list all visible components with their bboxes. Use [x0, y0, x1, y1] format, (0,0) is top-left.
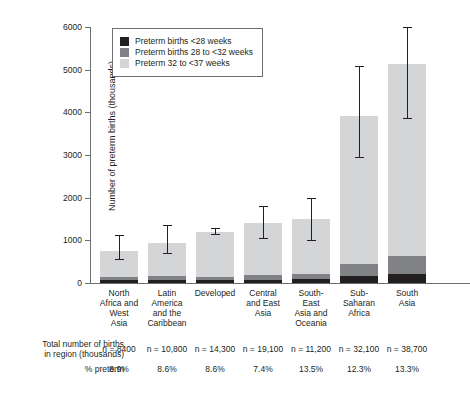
error-bar-cap-low-5	[355, 157, 364, 158]
legend-item-2: Preterm 32 to <37 weeks	[120, 59, 253, 69]
error-bar-cap-low-2	[211, 234, 220, 235]
category-label-line: Asia	[379, 298, 435, 308]
y-axis-line	[90, 27, 91, 283]
error-bar-cap-low-3	[259, 238, 268, 239]
bar-segment-1	[244, 275, 282, 280]
bar-segment-0	[388, 274, 426, 283]
bar-segment-1	[148, 276, 186, 280]
y-tick-1000	[85, 240, 90, 241]
error-bar-cap-low-0	[115, 259, 124, 260]
y-tick-label-4000: 4000	[38, 108, 82, 117]
bar-segment-2	[196, 232, 234, 277]
category-label-line: Caribbean	[139, 318, 195, 328]
error-bar-3	[263, 206, 264, 238]
y-tick-label-6000: 6000	[38, 23, 82, 32]
chart-legend: Preterm births <28 weeksPreterm births 2…	[112, 28, 263, 77]
y-tick-label-1000: 1000	[38, 236, 82, 245]
error-bar-cap-high-6	[403, 27, 412, 28]
table-row: Total number of birthsin region (thousan…	[0, 340, 470, 360]
bar-segment-0	[148, 280, 186, 283]
bar-segment-1	[100, 277, 138, 280]
bar-segment-1	[388, 256, 426, 274]
error-bar-cap-high-4	[307, 198, 316, 199]
category-label-line: South	[379, 288, 435, 298]
error-bar-cap-low-6	[403, 118, 412, 119]
bar-segment-1	[340, 264, 378, 276]
legend-item-1: Preterm births 28 to <32 weeks	[120, 48, 253, 58]
y-tick-3000	[85, 155, 90, 156]
error-bar-1	[167, 225, 168, 253]
y-tick-0	[85, 283, 90, 284]
legend-swatch-icon-2	[120, 59, 129, 68]
preterm-births-figure: 0100020003000400050006000 Number of pret…	[0, 0, 470, 395]
bar-segment-0	[244, 280, 282, 283]
legend-item-0: Preterm births <28 weeks	[120, 37, 253, 47]
error-bar-cap-high-3	[259, 206, 268, 207]
legend-swatch-icon-0	[120, 37, 129, 46]
table-row: % preterm8.9%8.6%8.6%7.4%13.5%12.3%13.3%	[0, 364, 470, 384]
y-tick-2000	[85, 198, 90, 199]
error-bar-4	[311, 198, 312, 240]
y-tick-label-2000: 2000	[38, 194, 82, 203]
bar-segment-0	[292, 279, 330, 283]
y-tick-4000	[85, 112, 90, 113]
bar-segment-0	[100, 280, 138, 283]
error-bar-cap-high-2	[211, 228, 220, 229]
y-tick-label-5000: 5000	[38, 66, 82, 75]
error-bar-cap-high-5	[355, 66, 364, 67]
bar-segment-0	[196, 280, 234, 283]
bar-2	[196, 232, 234, 283]
bar-segment-1	[196, 277, 234, 280]
error-bar-0	[119, 235, 120, 259]
category-label-line: America	[139, 298, 195, 308]
legend-swatch-icon-1	[120, 48, 129, 57]
x-axis-line	[90, 283, 470, 284]
error-bar-cap-low-1	[163, 253, 172, 254]
bar-segment-1	[292, 274, 330, 280]
bar-segment-0	[340, 276, 378, 283]
error-bar-6	[407, 27, 408, 119]
y-tick-5000	[85, 70, 90, 71]
legend-label-0: Preterm births <28 weeks	[135, 37, 232, 47]
category-label-line: Africa	[331, 308, 387, 318]
y-tick-6000	[85, 27, 90, 28]
error-bar-cap-low-4	[307, 240, 316, 241]
category-label-line: and the	[139, 308, 195, 318]
category-label-line: Oceania	[283, 318, 339, 328]
error-bar-cap-high-1	[163, 225, 172, 226]
y-tick-label-3000: 3000	[38, 151, 82, 160]
legend-label-1: Preterm births 28 to <32 weeks	[135, 48, 253, 58]
category-label-6: SouthAsia	[379, 288, 435, 308]
y-tick-label-0: 0	[38, 279, 82, 288]
error-bar-cap-high-0	[115, 235, 124, 236]
table-cell: 13.3%	[379, 365, 435, 375]
table-cell: n = 38,700	[379, 345, 435, 355]
legend-label-2: Preterm 32 to <37 weeks	[135, 59, 230, 69]
error-bar-5	[359, 66, 360, 157]
